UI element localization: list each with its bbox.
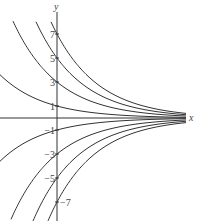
curve-c-3 [11,120,186,219]
y-tick-label: −3 [44,149,55,160]
y-tick-label: 3 [50,77,55,88]
y-tick-label: 1 [50,101,55,112]
curve-c3 [13,21,186,116]
x-axis-label: x [188,112,194,123]
curve-group [0,21,186,221]
y-tick-label: −5 [44,173,55,184]
curve-c-5 [33,121,186,221]
y-tick-label: 5 [50,53,55,64]
y-tick-label: 7 [50,29,55,40]
curve-c7 [51,22,186,114]
y-tick-label: −1 [44,125,55,136]
curve-c5 [36,22,186,115]
y-tick-label: −7 [60,197,71,208]
chart: 7531−1−3−5−7 x y [0,0,198,221]
y-axis-label: y [53,1,59,12]
